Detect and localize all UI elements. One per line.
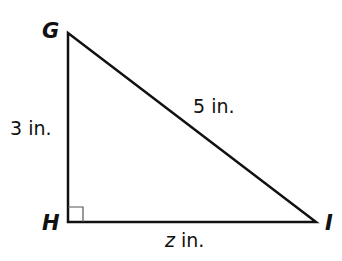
- side-label-gh: 3 in.: [10, 119, 52, 138]
- vertex-label-i: I: [325, 213, 333, 234]
- right-angle-marker: [68, 207, 83, 222]
- vertex-label-h: H: [42, 213, 60, 234]
- triangle-ghi: [68, 33, 316, 222]
- variable-z: z: [165, 229, 175, 251]
- side-label-gi: 5 in.: [193, 97, 235, 116]
- vertex-label-g: G: [42, 21, 59, 42]
- side-label-hi: z in.: [165, 231, 204, 250]
- unit-label: in.: [181, 229, 204, 251]
